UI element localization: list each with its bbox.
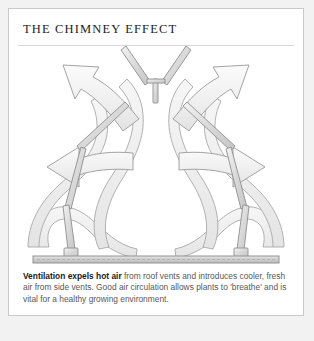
roof-vent-cap — [147, 79, 165, 83]
roof-vent-left-flap — [121, 46, 150, 85]
caption: Ventilation expels hot air from roof ven… — [23, 271, 291, 305]
intake-ribbon-left — [37, 207, 137, 258]
intake-ribbon-right — [175, 207, 275, 258]
roof-vent-right-flap — [162, 46, 191, 85]
ground-bar — [33, 256, 279, 263]
chimney-effect-airflow-diagram — [9, 41, 303, 266]
illustration-card: THE CHIMNEY EFFECT — [8, 8, 304, 316]
caption-lead: Ventilation expels hot air — [23, 271, 122, 281]
page-title: THE CHIMNEY EFFECT — [23, 22, 177, 37]
